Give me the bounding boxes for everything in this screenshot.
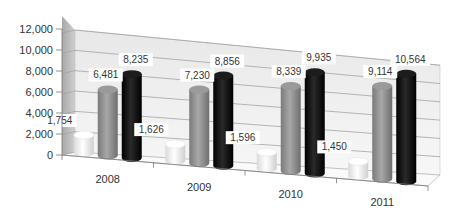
x-tick-label: 2011 xyxy=(370,196,394,208)
bar-series-1-2011[interactable] xyxy=(348,157,368,180)
svg-text:8,235: 8,235 xyxy=(123,54,148,65)
svg-text:9,935: 9,935 xyxy=(306,52,331,63)
svg-text:7,230: 7,230 xyxy=(185,70,210,81)
data-label: 10,564 xyxy=(390,53,430,66)
data-label: 1,450 xyxy=(317,140,351,153)
svg-text:10,564: 10,564 xyxy=(395,54,426,65)
data-label: 8,339 xyxy=(272,65,306,78)
data-label: 1,626 xyxy=(134,123,168,136)
svg-text:8,339: 8,339 xyxy=(276,66,301,77)
y-tick-label: 8,000 xyxy=(25,65,53,77)
bar-series-1-2008[interactable] xyxy=(74,131,94,157)
y-tick-label: 4,000 xyxy=(25,107,53,119)
bar-series-3-2008[interactable] xyxy=(122,70,142,162)
data-label: 7,230 xyxy=(180,69,214,82)
bar-series-3-2011[interactable] xyxy=(396,70,416,185)
svg-text:1,596: 1,596 xyxy=(230,132,255,143)
data-label: 1,596 xyxy=(226,131,260,144)
svg-text:9,114: 9,114 xyxy=(368,66,393,77)
bar-series-2-2011[interactable] xyxy=(372,82,392,183)
data-label: 9,114 xyxy=(363,65,397,78)
y-tick-label: 2,000 xyxy=(25,128,53,140)
bar-series-1-2010[interactable] xyxy=(257,148,277,172)
y-tick-label: 10,000 xyxy=(19,44,53,56)
data-label: 9,935 xyxy=(302,51,336,64)
bar-series-2-2009[interactable] xyxy=(189,86,209,168)
svg-text:1,626: 1,626 xyxy=(139,124,164,135)
svg-text:8,856: 8,856 xyxy=(215,56,240,67)
data-label: 6,481 xyxy=(89,68,123,81)
x-tick-label: 2009 xyxy=(187,181,211,193)
data-label: 8,856 xyxy=(210,55,244,68)
y-tick-label: 12,000 xyxy=(19,23,53,35)
bar-series-2-2010[interactable] xyxy=(281,82,301,175)
svg-text:6,481: 6,481 xyxy=(93,69,118,80)
bar-series-3-2009[interactable] xyxy=(213,72,233,170)
svg-text:1,450: 1,450 xyxy=(322,141,347,152)
bar-series-3-2010[interactable] xyxy=(305,68,325,177)
x-tick-label: 2008 xyxy=(96,173,120,185)
data-label: 8,235 xyxy=(119,53,153,66)
y-axis: 02,0004,0006,0008,00010,00012,000 xyxy=(19,23,62,161)
chart-canvas: 1,7546,4818,2351,6267,2308,8561,5968,339… xyxy=(0,0,450,210)
y-tick-label: 0 xyxy=(47,149,53,161)
bar-series-2-2008[interactable] xyxy=(98,85,118,159)
cylinder-bar-chart: 1,7546,4818,2351,6267,2308,8561,5968,339… xyxy=(0,0,450,210)
bar-series-1-2009[interactable] xyxy=(165,140,185,165)
x-tick-label: 2010 xyxy=(279,188,303,200)
y-tick-label: 6,000 xyxy=(25,86,53,98)
